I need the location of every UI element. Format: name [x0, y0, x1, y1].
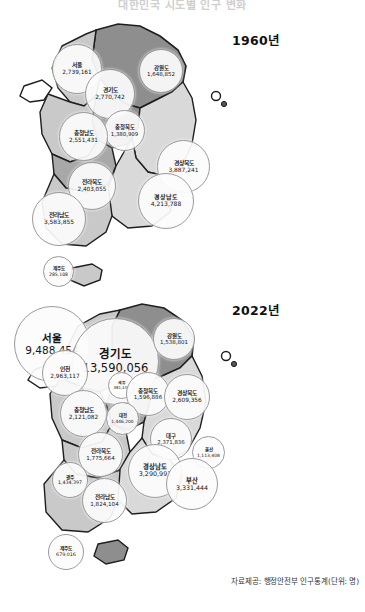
bubble-1960-jeonnam[interactable]: 전라남도 3,583,855 — [32, 192, 86, 246]
bubble-2022-jeonnam[interactable]: 전라남도 1,824,104 — [82, 478, 127, 523]
source-footnote: 자료제공: 행정안전부 인구통계(단위: 명) — [231, 575, 359, 586]
bubble-2022-jeju[interactable]: 제주도 679,016 — [48, 534, 84, 570]
page-title: 대한민국 시도별 인구 변화 — [0, 0, 365, 12]
map-panel-2022: 2022년 서울 — [0, 292, 365, 582]
bubble-2022-busan[interactable]: 부산 3,331,444 — [166, 458, 218, 510]
bubble-1960-chungbuk[interactable]: 충청북도 1,380,909 — [104, 110, 145, 151]
bubble-2022-gyeongbuk[interactable]: 경상북도 2,609,356 — [164, 374, 210, 420]
population-infographic: 대한민국 시도별 인구 변화 1960년 — [0, 0, 365, 612]
bubble-1960-gyeongnam[interactable]: 경상남도 4,213,788 — [138, 173, 194, 229]
bubble-1960-gangwon[interactable]: 강원도 1,648,852 — [139, 49, 183, 93]
bubble-1960-chungnam[interactable]: 충청남도 2,551,431 — [59, 112, 108, 161]
bubble-2022-daejeon[interactable]: 대전 1,446,200 — [106, 402, 139, 435]
bubble-2022-gangwon[interactable]: 강원도 1,538,801 — [153, 318, 195, 360]
bubble-2022-chungnam[interactable]: 충청남도 2,121,082 — [60, 390, 107, 437]
map-panel-1960: 1960년 서울 — [0, 16, 365, 300]
bubble-1960-jeju[interactable]: 제주도 285,108 — [43, 256, 74, 287]
